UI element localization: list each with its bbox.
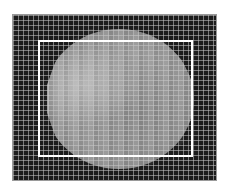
image-canvas [0,0,227,188]
image-frame [12,14,217,181]
roi-rectangle [38,40,193,157]
